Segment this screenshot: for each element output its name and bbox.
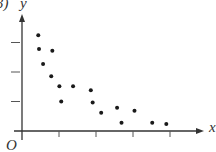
data-point <box>50 49 54 53</box>
data-point <box>59 100 63 104</box>
data-point <box>41 62 45 66</box>
y-axis-label: y <box>20 0 27 11</box>
data-point <box>115 106 119 110</box>
data-point <box>89 88 93 92</box>
data-point <box>37 47 41 51</box>
y-axis-arrow <box>19 14 25 22</box>
data-point <box>164 122 168 126</box>
y-ticks <box>11 43 20 102</box>
data-point <box>71 84 75 88</box>
data-point <box>150 121 154 125</box>
data-point <box>36 33 40 37</box>
x-ticks <box>59 131 170 137</box>
scatter-plot <box>0 0 216 152</box>
data-point <box>120 121 124 125</box>
corner-label: 3) <box>0 0 9 11</box>
data-point <box>49 74 53 78</box>
x-axis-arrow <box>196 128 204 134</box>
x-axis-label: x <box>209 120 216 135</box>
data-point <box>57 84 61 88</box>
origin-label: O <box>6 138 17 152</box>
data-point <box>99 111 103 115</box>
data-points <box>36 33 168 126</box>
data-point <box>91 100 95 104</box>
axes <box>14 20 200 140</box>
data-point <box>132 109 136 113</box>
